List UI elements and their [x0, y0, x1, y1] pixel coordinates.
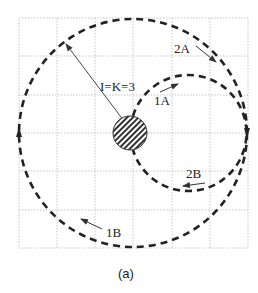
label-1A: 1A	[154, 93, 171, 108]
arrow-2B	[183, 183, 205, 186]
arrow-2A	[196, 46, 216, 62]
label-1B: 1B	[106, 225, 122, 240]
figure-caption: (a)	[118, 266, 134, 281]
arrowhead-icon	[16, 127, 22, 137]
arrow-1A	[160, 84, 178, 92]
trajectory-diagram: I=K=3 2A 1A 2B 1B (a)	[0, 0, 258, 293]
arrow-1B	[81, 219, 102, 229]
label-2B: 2B	[186, 166, 202, 181]
label-2A: 2A	[174, 41, 191, 56]
radius-label: I=K=3	[100, 79, 135, 94]
center-disk	[113, 116, 147, 150]
